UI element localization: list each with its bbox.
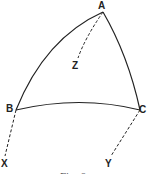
- label-c: C: [139, 104, 146, 115]
- label-x: X: [1, 158, 8, 169]
- label-a: A: [98, 0, 105, 11]
- dashed-b-x: [5, 110, 16, 156]
- spherical-triangle-diagram: A Z B C X Y Fig. 6: [0, 0, 147, 174]
- arc-a-c: [103, 12, 140, 110]
- label-y: Y: [105, 158, 112, 169]
- arc-b-c: [16, 103, 140, 111]
- label-z: Z: [72, 60, 78, 71]
- dashed-c-y: [111, 110, 140, 156]
- arc-a-b: [16, 12, 103, 110]
- label-b: B: [6, 103, 13, 114]
- figure-caption: Fig. 6: [60, 170, 86, 174]
